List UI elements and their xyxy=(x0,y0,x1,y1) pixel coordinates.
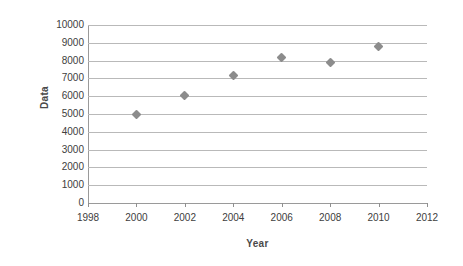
y-axis-tick-label: 9000 xyxy=(38,38,84,48)
scatter-chart-figure: Data 01000200030004000500060007000800090… xyxy=(0,0,463,266)
x-axis-tick-mark xyxy=(185,203,186,207)
x-axis-tick-label: 1998 xyxy=(65,212,111,223)
data-point-marker xyxy=(131,110,141,120)
x-axis-tick-label: 2012 xyxy=(404,212,450,223)
x-axis-tick-label: 2004 xyxy=(210,212,256,223)
y-axis-tick-label: 0 xyxy=(38,198,84,208)
x-axis-tick-mark xyxy=(427,203,428,207)
y-axis-tick-label: 1000 xyxy=(38,180,84,190)
x-axis-tick-label: 2006 xyxy=(259,212,305,223)
x-axis-tick-label: 2000 xyxy=(113,212,159,223)
gridline-horizontal xyxy=(88,25,427,26)
y-axis-tick-label: 5000 xyxy=(38,109,84,119)
x-axis-tick-label: 2008 xyxy=(307,212,353,223)
y-axis-tick-labels: 0100020003000400050006000700080009000100… xyxy=(36,25,84,204)
x-axis-tick-label: 2010 xyxy=(356,212,402,223)
x-axis-tick-mark xyxy=(379,203,380,207)
gridline-horizontal xyxy=(88,78,427,79)
y-axis-tick-label: 2000 xyxy=(38,162,84,172)
y-axis-tick-label: 7000 xyxy=(38,73,84,83)
x-axis-title: Year xyxy=(88,238,427,249)
y-axis-tick-label: 4000 xyxy=(38,127,84,137)
data-point-marker xyxy=(180,90,190,100)
gridline-horizontal xyxy=(88,185,427,186)
y-axis-tick-label: 3000 xyxy=(38,145,84,155)
gridline-horizontal xyxy=(88,61,427,62)
y-axis-tick-label: 10000 xyxy=(38,20,84,30)
x-axis-tick-mark xyxy=(282,203,283,207)
gridline-horizontal xyxy=(88,150,427,151)
x-axis-tick-mark xyxy=(330,203,331,207)
plot-area xyxy=(88,25,427,203)
gridline-horizontal xyxy=(88,132,427,133)
y-axis-tick-label: 8000 xyxy=(38,56,84,66)
gridline-horizontal xyxy=(88,167,427,168)
x-axis-tick-labels: 19982000200220042006200820102012 xyxy=(88,203,428,233)
y-axis-tick-label: 6000 xyxy=(38,91,84,101)
data-point-marker xyxy=(325,57,335,67)
gridline-horizontal xyxy=(88,96,427,97)
x-axis-tick-mark xyxy=(233,203,234,207)
x-axis-tick-mark xyxy=(88,203,89,207)
x-axis-tick-mark xyxy=(136,203,137,207)
x-axis-tick-label: 2002 xyxy=(162,212,208,223)
